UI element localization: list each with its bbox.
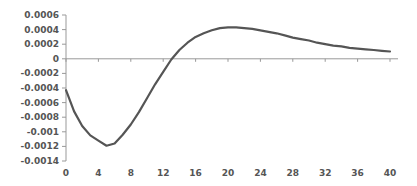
series-line bbox=[66, 27, 390, 145]
line-chart: 0.00060.00040.00020-0.0002-0.0004-0.0006… bbox=[0, 0, 417, 186]
y-tick-label: -0.0004 bbox=[21, 83, 59, 93]
x-tick-label: 40 bbox=[384, 168, 397, 178]
x-tick-label: 36 bbox=[351, 168, 364, 178]
x-tick-label: 4 bbox=[95, 168, 101, 178]
plot-area bbox=[66, 27, 390, 145]
y-tick-label: -0.0002 bbox=[21, 68, 59, 78]
x-tick-label: 0 bbox=[63, 168, 69, 178]
y-tick-label: -0.0012 bbox=[21, 141, 59, 151]
y-tick-label: -0.0008 bbox=[21, 112, 59, 122]
x-tick-label: 32 bbox=[319, 168, 332, 178]
y-tick-label: 0.0002 bbox=[24, 39, 59, 49]
y-tick-label: 0.0006 bbox=[24, 10, 59, 20]
y-tick-label: -0.0006 bbox=[21, 98, 59, 108]
y-tick-label: -0.0014 bbox=[21, 156, 59, 166]
y-tick-label: -0.001 bbox=[27, 127, 59, 137]
y-axis: 0.00060.00040.00020-0.0002-0.0004-0.0006… bbox=[21, 10, 66, 166]
x-tick-label: 28 bbox=[287, 168, 300, 178]
x-tick-label: 24 bbox=[254, 168, 267, 178]
x-tick-label: 20 bbox=[222, 168, 235, 178]
x-tick-label: 16 bbox=[189, 168, 202, 178]
y-tick-label: 0.0004 bbox=[24, 25, 59, 35]
x-axis: 0481216202428323640 bbox=[63, 59, 398, 178]
x-tick-label: 12 bbox=[157, 168, 170, 178]
x-tick-label: 8 bbox=[128, 168, 134, 178]
y-tick-label: 0 bbox=[53, 54, 59, 64]
